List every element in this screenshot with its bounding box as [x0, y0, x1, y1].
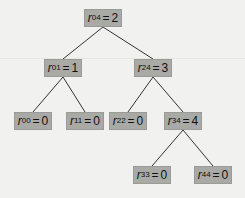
- edge-r24-r22: [128, 77, 153, 112]
- equals-sign: =: [63, 61, 70, 75]
- edge-r34-r33: [152, 130, 183, 166]
- edge-r01-r00: [33, 77, 63, 112]
- node-value: 4: [192, 114, 199, 128]
- equals-sign: =: [183, 114, 190, 128]
- node-value: 0: [137, 114, 144, 128]
- equals-sign: =: [152, 168, 159, 182]
- equals-sign: =: [128, 114, 135, 128]
- node-r11: r11=0: [66, 112, 104, 130]
- node-r24: r24=3: [134, 59, 172, 77]
- node-value: 0: [161, 168, 168, 182]
- node-r33: r33=0: [133, 166, 171, 184]
- node-value: 2: [112, 11, 119, 25]
- node-value: 0: [93, 114, 100, 128]
- edge-r34-r44: [183, 130, 213, 166]
- edge-r04-r24: [103, 27, 153, 59]
- node-value: 1: [72, 61, 79, 75]
- node-r04: r04=2: [84, 9, 122, 27]
- edge-r24-r34: [153, 77, 183, 112]
- equals-sign: =: [103, 11, 110, 25]
- equals-sign: =: [153, 61, 160, 75]
- equals-sign: =: [84, 114, 91, 128]
- edge-r04-r01: [63, 27, 103, 59]
- node-r01: r01=1: [44, 59, 82, 77]
- equals-sign: =: [33, 114, 40, 128]
- node-value: 0: [222, 168, 229, 182]
- node-r44: r44=0: [194, 166, 232, 184]
- equals-sign: =: [213, 168, 220, 182]
- edge-r01-r11: [63, 77, 85, 112]
- node-value: 0: [42, 114, 49, 128]
- node-r22: r22=0: [109, 112, 147, 130]
- node-r34: r34=4: [164, 112, 202, 130]
- node-r00: r00=0: [14, 112, 52, 130]
- node-value: 3: [162, 61, 169, 75]
